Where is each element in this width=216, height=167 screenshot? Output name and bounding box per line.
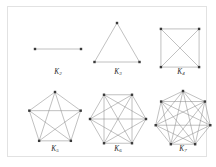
caption-k4: K4 bbox=[153, 69, 209, 76]
caption-k5-subscript: 5 bbox=[56, 148, 59, 153]
caption-k2-subscript: 2 bbox=[59, 71, 62, 76]
graph-vertex bbox=[160, 66, 162, 68]
graph-vertex bbox=[160, 28, 162, 30]
caption-k7: K7 bbox=[155, 146, 211, 153]
graph-vertex bbox=[93, 61, 95, 63]
graph-edge bbox=[90, 119, 132, 143]
graph-edge bbox=[29, 92, 55, 111]
graph-edge bbox=[161, 91, 183, 102]
graph-vertex bbox=[182, 90, 184, 92]
graph-vertex bbox=[198, 66, 200, 68]
graph-edge bbox=[29, 111, 39, 141]
graph-edge bbox=[90, 95, 104, 119]
graph-vertex bbox=[160, 100, 162, 102]
vertex-group bbox=[155, 90, 212, 146]
figure-plate: K2 K3 K4 K5 K6 K7 bbox=[7, 6, 207, 157]
graph-edge bbox=[90, 119, 104, 143]
caption-k6-subscript: 6 bbox=[119, 148, 122, 153]
graph-vertex bbox=[34, 48, 36, 50]
graph-edge bbox=[171, 125, 210, 144]
caption-k3-subscript: 3 bbox=[119, 71, 122, 76]
graph-edge bbox=[183, 91, 205, 102]
caption-k7-subscript: 7 bbox=[184, 148, 187, 153]
edge-group bbox=[161, 29, 199, 67]
graph-edge bbox=[94, 23, 117, 62]
graph-vertex bbox=[103, 142, 105, 144]
figure-complete-graphs: K2 K3 K4 K5 K6 K7 bbox=[0, 0, 216, 167]
graph-vertex bbox=[89, 118, 91, 120]
graph-vertex bbox=[54, 91, 56, 93]
graph-vertex bbox=[28, 109, 30, 111]
graph-vertex bbox=[155, 124, 157, 126]
edge-group bbox=[156, 91, 211, 144]
graph-edge bbox=[156, 102, 205, 126]
graph-vertex bbox=[38, 140, 40, 142]
graph-edge bbox=[39, 92, 55, 141]
graph-vertex bbox=[103, 94, 105, 96]
graph-edge bbox=[156, 125, 195, 144]
graph-edge bbox=[161, 102, 210, 126]
graph-edge bbox=[90, 95, 132, 119]
graph-edge bbox=[29, 111, 71, 141]
graph-vertex bbox=[209, 124, 211, 126]
graph-k7 bbox=[133, 77, 208, 157]
graph-vertex bbox=[204, 100, 206, 102]
caption-k4-subscript: 4 bbox=[182, 71, 185, 76]
graph-cell-k7 bbox=[133, 77, 208, 157]
graph-vertex bbox=[198, 28, 200, 30]
graph-vertex bbox=[116, 22, 118, 24]
